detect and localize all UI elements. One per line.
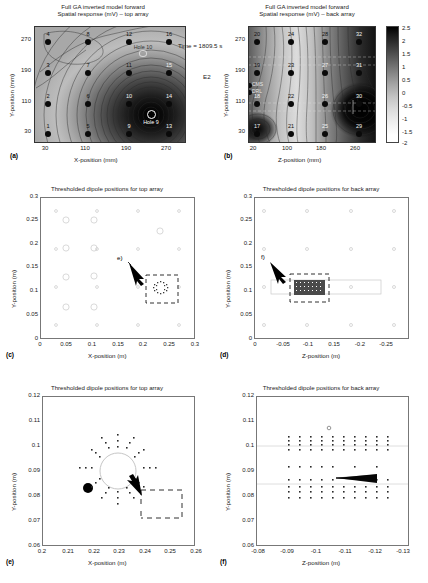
panel-c-xtick: 0: [31, 341, 49, 347]
panel-d-xtick: 0.15: [324, 341, 344, 347]
panel-c-xtick: 0.3: [186, 341, 204, 347]
panel-f-ytick: 0.11: [226, 417, 254, 423]
panel-c-callout: e): [117, 254, 123, 261]
panel-a-title: Full GA inverted model forward Spatial r…: [18, 3, 188, 18]
panel-e-xtick: 0.2: [33, 548, 51, 554]
panel-b: Full GA inverted model forward Spatial r…: [214, 0, 428, 178]
panel-b-xtick: 100: [277, 145, 297, 151]
panel-c-ytick: 0.25: [12, 216, 38, 222]
panel-c-ylabel: Y-position (m): [10, 270, 17, 308]
panel-c: Thresholded dipole positions for top arr…: [0, 183, 214, 375]
panel-f-ylabel: Y-position (m): [224, 473, 231, 511]
colorbar-tick: 0: [402, 90, 405, 96]
panel-f-ytick: 0.1: [226, 442, 254, 448]
panel-c-ytick: 0.15: [12, 263, 38, 269]
panel-a: Full GA inverted model forward Spatial r…: [0, 0, 200, 178]
panel-e-label: (e): [6, 558, 14, 565]
panel-c-ytick: 0.2: [12, 240, 38, 246]
panel-e-ylabel: Y-position (m): [10, 473, 17, 511]
panel-a-xtick: 30: [35, 145, 55, 151]
panel-f: Thresholded dipole positions for back ar…: [214, 378, 428, 583]
figure-root: Full GA inverted model forward Spatial r…: [0, 0, 428, 583]
panel-d-xtick: -0.25: [375, 341, 397, 347]
panel-f-xtick: -0.1: [306, 548, 326, 554]
panel-e-xtick: 0.24: [135, 548, 155, 554]
panel-d-label: (d): [220, 351, 228, 358]
panel-d-callout: f): [261, 253, 265, 260]
panel-d-ytick: 0.3: [226, 193, 252, 199]
colorbar-tick: -1.5: [402, 129, 412, 135]
panel-f-xtick: -0.09: [276, 548, 298, 554]
panel-d: Thresholded dipole positions for back ar…: [214, 183, 428, 375]
panel-c-xtick: 0.2: [134, 341, 152, 347]
panel-b-xtick: 260: [345, 145, 365, 151]
panel-e: Thresholded dipole positions for top arr…: [0, 378, 214, 583]
panel-f-xlabel: Z-position (m): [302, 559, 340, 566]
panel-c-xtick: 0.25: [160, 341, 178, 347]
panel-a-ytick: 30: [10, 128, 31, 134]
panel-d-xlabel: Z-position (m): [302, 352, 340, 359]
panel-b-axes: [248, 26, 376, 143]
panel-b-ylabel: Y-position (mm): [222, 74, 229, 117]
panel-c-xtick: 0.15: [109, 341, 127, 347]
panel-a-axes: [34, 26, 186, 143]
panel-e-xlabel: X-position (m): [88, 559, 127, 566]
panel-e-ytick: 0.1: [12, 442, 40, 448]
panel-f-xtick: -0.08: [247, 548, 269, 554]
panel-d-ytick: 0.15: [226, 263, 252, 269]
panel-d-xtick: -0.1: [298, 341, 318, 347]
panel-c-xtick: 0.1: [83, 341, 101, 347]
panel-d-xtick: -0.05: [272, 341, 294, 347]
colorbar-tick: 0.5: [402, 77, 410, 83]
panel-b-xtick: 180: [311, 145, 331, 151]
colorbar-tick: 2.5: [402, 25, 410, 31]
panel-a-xtick: 110: [75, 145, 95, 151]
panel-d-ytick: 0.05: [226, 311, 252, 317]
colorbar-tick: -2: [402, 140, 407, 146]
panel-e-xtick: 0.22: [84, 548, 104, 554]
panel-f-xtick: -0.13: [392, 548, 414, 554]
panel-e-ytick: 0.12: [12, 392, 40, 398]
colorbar-tick: 1.5: [402, 51, 410, 57]
panel-e-xtick: 0.25: [160, 548, 180, 554]
panel-e-ytick: 0.07: [12, 517, 40, 523]
panel-f-ytick: 0.12: [226, 392, 254, 398]
panel-b-ytick: 190: [224, 67, 245, 73]
panel-a-xtick: 190: [116, 145, 136, 151]
panel-c-xlabel: X-position (m): [88, 352, 127, 359]
colorbar-tick: -1: [402, 116, 407, 122]
panel-b-ytick: 270: [224, 36, 245, 42]
panel-b-ytick: 30: [224, 128, 245, 134]
panel-b-label: (b): [224, 152, 232, 159]
panel-a-xlabel: X-position (mm): [74, 156, 118, 163]
panel-f-xtick: -0.11: [334, 548, 356, 554]
panel-f-xtick: -0.12: [364, 548, 386, 554]
panel-d-ytick: 0.25: [226, 216, 252, 222]
event-annotation: E2: [203, 73, 211, 80]
panel-c-ytick: 0.05: [12, 311, 38, 317]
panel-f-label: (f): [220, 558, 227, 565]
panel-b-xlabel: Z-position (mm): [278, 156, 321, 163]
panel-a-ylabel: Y-position (mm): [8, 74, 15, 117]
panel-d-xtick: 0: [246, 341, 264, 347]
panel-a-ytick: 190: [10, 67, 31, 73]
panel-f-ytick: 0.07: [226, 517, 254, 523]
colorbar: [386, 26, 399, 143]
panel-c-xtick: 0.05: [57, 341, 75, 347]
panel-b-xtick: 20: [243, 145, 263, 151]
panel-e-xtick: 0.23: [109, 548, 129, 554]
panel-a-ytick: 270: [10, 36, 31, 42]
panel-e-ytick: 0.11: [12, 417, 40, 423]
panel-b-title: Full GA inverted model forward Spatial r…: [222, 3, 392, 18]
panel-c-label: (c): [6, 351, 14, 358]
colorbar-tick: 2: [402, 38, 405, 44]
colorbar-tick: 1: [402, 64, 405, 70]
panel-a-xtick: 270: [156, 145, 176, 151]
panel-a-label: (a): [10, 152, 18, 159]
panel-e-xtick: 0.26: [186, 548, 206, 554]
panel-c-ytick: 0.3: [12, 193, 38, 199]
panel-e-xtick: 0.21: [58, 548, 78, 554]
colorbar-tick: -0.5: [402, 103, 412, 109]
panel-d-ylabel: Y-position (m): [224, 270, 231, 308]
panel-d-xtick: -0.2: [350, 341, 370, 347]
